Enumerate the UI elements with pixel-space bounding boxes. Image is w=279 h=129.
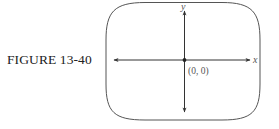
rounded-frame (106, 3, 260, 121)
coordinate-diagram: y x (0, 0) (0, 0, 279, 129)
origin-label: (0, 0) (188, 66, 209, 77)
origin-point (183, 58, 187, 62)
x-axis-label: x (252, 54, 258, 65)
y-axis-label: y (180, 1, 186, 12)
